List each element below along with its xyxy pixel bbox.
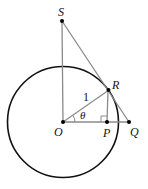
segment-RP <box>107 90 108 122</box>
label-R: R <box>111 78 120 92</box>
segment-OS <box>62 21 63 122</box>
point-O <box>61 120 65 124</box>
point-Q <box>127 120 131 124</box>
label-S: S <box>58 5 64 19</box>
label-theta: θ <box>80 109 86 121</box>
label-O: O <box>54 125 63 139</box>
point-S <box>60 19 64 23</box>
label-Q: Q <box>130 125 139 139</box>
label-radius: 1 <box>83 90 89 104</box>
point-P <box>105 120 109 124</box>
unit-circle-diagram: S R O P Q 1 θ <box>0 0 148 189</box>
angle-arc <box>73 116 75 123</box>
segment-SQ <box>62 21 129 122</box>
point-R <box>107 88 111 92</box>
label-P: P <box>102 126 111 140</box>
